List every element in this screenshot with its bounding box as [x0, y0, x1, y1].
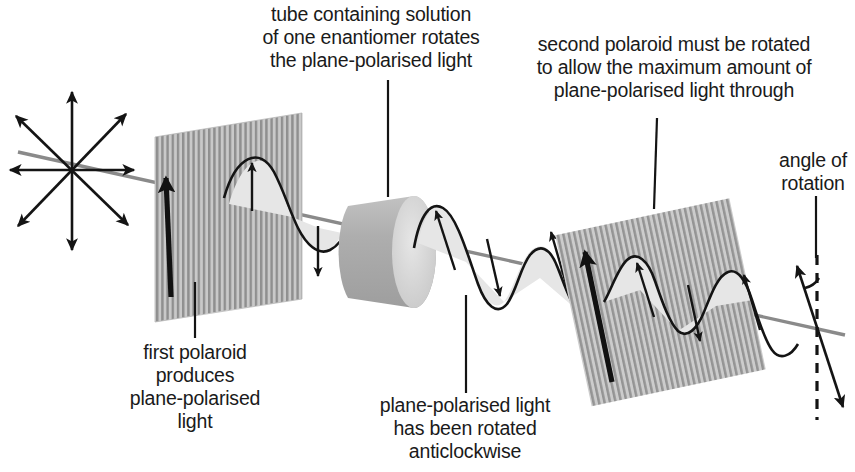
second-polaroid-caption-line-2: to allow the maximum amount of — [537, 56, 812, 78]
second-polaroid-caption-line-1: second polaroid must be rotated — [538, 33, 810, 55]
second-polaroid-caption: second polaroid must be rotated to allow… — [537, 33, 812, 101]
rotated-light-caption-line-2: has been rotated — [393, 417, 536, 439]
unpolarised-light-center — [70, 168, 75, 173]
polarimeter-diagram: tube containing solution of one enantiom… — [0, 0, 855, 472]
first-polaroid-caption-line-4: light — [178, 410, 214, 432]
diagram-canvas: tube containing solution of one enantiom… — [0, 0, 855, 472]
tube-caption-line-2: of one enantiomer rotates — [262, 26, 480, 48]
second-polaroid-caption-line-3: plane-polarised light through — [554, 79, 794, 101]
angle-of-rotation-caption: angle of rotation — [779, 149, 848, 194]
rotated-light-caption-line-1: plane-polarised light — [380, 394, 551, 416]
first-polaroid-filter — [155, 113, 302, 322]
rotated-light-caption-line-3: anticlockwise — [409, 440, 521, 462]
first-polaroid-caption-line-2: produces — [156, 364, 235, 386]
tube-caption-line-1: tube containing solution — [271, 3, 471, 25]
tube-caption-line-3: the plane-polarised light — [270, 49, 473, 71]
angle-caption-line-1: angle of — [779, 149, 848, 171]
sample-tube — [339, 196, 436, 308]
tube-caption: tube containing solution of one enantiom… — [262, 3, 480, 71]
angle-caption-line-2: rotation — [781, 172, 844, 194]
first-polaroid-caption-line-1: first polaroid — [143, 341, 246, 363]
first-polaroid-caption-line-3: plane-polarised — [130, 387, 260, 409]
